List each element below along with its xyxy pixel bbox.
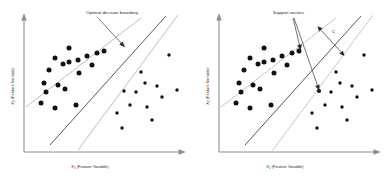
data-point	[53, 106, 58, 111]
data-point	[237, 81, 242, 86]
data-point	[42, 81, 47, 86]
data-point	[272, 71, 277, 76]
data-point	[145, 105, 148, 108]
margin-arrow-end-icon	[339, 51, 344, 56]
data-point	[329, 90, 332, 93]
axis-labels: X1 (Feature Variable) X2 (Feature Variab…	[205, 67, 304, 170]
support-vectors-annotation: Support vectors	[273, 10, 320, 91]
optimal-boundary-annotation: Optimal decision boundary	[86, 10, 139, 48]
data-point	[95, 51, 100, 56]
data-point	[102, 49, 107, 54]
data-point	[160, 95, 163, 98]
data-point	[350, 84, 353, 87]
lower-margin-line	[78, 15, 178, 150]
data-point	[248, 56, 253, 61]
decision-lines	[26, 15, 178, 150]
optimal-boundary-label: Optimal decision boundary	[86, 10, 139, 15]
maximum-margin-hyperplane-line	[245, 16, 361, 145]
data-point	[167, 53, 170, 56]
data-point	[248, 106, 253, 111]
data-point	[77, 71, 82, 76]
x-axis-arrow-icon	[179, 149, 187, 154]
data-point	[239, 90, 244, 95]
data-point	[355, 95, 358, 98]
data-point	[338, 81, 341, 84]
data-point	[74, 103, 79, 108]
data-point	[323, 103, 326, 106]
margin-width-label: C	[332, 29, 335, 34]
data-point	[67, 60, 72, 65]
class-a-points	[39, 46, 107, 111]
annotation-arrow-icon	[119, 42, 125, 48]
data-point	[134, 90, 137, 93]
data-point	[115, 111, 118, 114]
data-point	[56, 83, 61, 88]
data-point	[120, 126, 123, 129]
data-point	[290, 51, 295, 56]
data-point	[67, 46, 72, 51]
data-point	[345, 118, 348, 121]
class-b-points	[310, 53, 373, 129]
data-point	[76, 58, 81, 63]
data-point	[47, 68, 52, 73]
data-point	[258, 87, 263, 92]
support-vectors-panel: Support vectors C X1 (Feature Variable) …	[195, 0, 391, 178]
lower-margin-line	[273, 15, 373, 150]
data-point	[310, 111, 313, 114]
data-point	[143, 81, 146, 84]
axis-labels: X1 (Feature Variable) X2 (Feature Variab…	[10, 67, 109, 170]
data-point	[280, 54, 285, 59]
data-point	[271, 58, 276, 63]
data-point	[90, 63, 95, 68]
support-vector-arrow-lower-icon	[315, 84, 320, 90]
data-point	[251, 83, 256, 88]
data-point	[63, 87, 68, 92]
data-point	[262, 46, 267, 51]
y-axis-label: X2 (Feature Variable)	[10, 67, 16, 105]
y-axis-arrow-icon	[21, 13, 26, 21]
margin-width-line	[319, 28, 343, 54]
data-point	[85, 54, 90, 59]
class-a-points	[234, 46, 302, 111]
data-point	[262, 60, 267, 65]
data-point	[150, 118, 153, 121]
data-point	[155, 84, 158, 87]
data-point	[128, 103, 131, 106]
margin-width-indicator: C	[317, 26, 344, 56]
optimal-decision-boundary-panel: Optimal decision boundary X1 (Feature Va…	[0, 0, 196, 178]
data-point	[53, 56, 58, 61]
data-point	[139, 70, 142, 73]
data-point	[269, 103, 274, 108]
x-axis-label: X1 (Feature Variable)	[71, 164, 109, 170]
class-b-points	[115, 53, 178, 129]
support-vectors-label: Support vectors	[273, 10, 304, 15]
data-point	[39, 101, 44, 106]
data-point	[242, 68, 247, 73]
data-point	[61, 62, 66, 67]
data-point	[340, 105, 343, 108]
annotation-leader-line	[98, 18, 122, 44]
data-point	[334, 70, 337, 73]
x-axis-label: X1 (Feature Variable)	[266, 164, 304, 170]
data-point	[44, 90, 49, 95]
data-point	[175, 88, 178, 91]
data-point	[234, 101, 239, 106]
y-axis-label: X2 (Feature Variable)	[205, 67, 211, 105]
x-axis-arrow-icon	[374, 149, 382, 154]
data-point	[315, 126, 318, 129]
svm-figure: Optimal decision boundary X1 (Feature Va…	[0, 0, 391, 178]
data-point	[370, 88, 373, 91]
data-point	[256, 62, 261, 67]
data-point	[362, 53, 365, 56]
data-point	[285, 63, 290, 68]
data-point	[122, 89, 125, 92]
optimal-decision-boundary-line	[50, 16, 166, 145]
y-axis-arrow-icon	[216, 13, 221, 21]
